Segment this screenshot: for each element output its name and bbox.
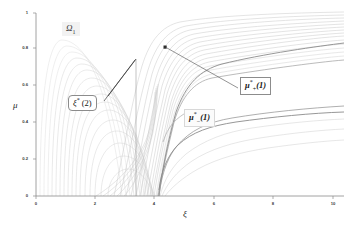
callout-xi-star-2[interactable]: ξ* (2) (68, 95, 97, 111)
x-tick-label-10: 10 (327, 201, 339, 206)
region-label-omega-1: Ω1 (62, 22, 80, 36)
callout-mu-star-minus-1[interactable]: μ*−(1) (184, 109, 215, 127)
y-axis-title: μ (13, 100, 18, 110)
x-axis-title: ξ (183, 209, 187, 219)
x-tick-marks (36, 196, 333, 199)
y-tick-label-0: 0 (14, 193, 28, 198)
critical-point-marker (164, 46, 167, 49)
x-tick-label-0: 0 (30, 201, 42, 206)
x-tick-label-4: 4 (148, 201, 160, 206)
plot-canvas (0, 0, 358, 234)
x-tick-label-6: 6 (208, 201, 220, 206)
y-tick-label-1: 1 (14, 10, 28, 15)
y-tick-label-0-6: 0.6 (14, 82, 28, 87)
mu-plus-superscript: * (250, 79, 253, 85)
xi-star-argument: (2) (80, 98, 92, 108)
y-tick-label-0-8: 0.8 (14, 45, 28, 50)
omega-subscript: 1 (73, 29, 76, 35)
x-tick-label-8: 8 (267, 201, 279, 206)
mu-minus-argument: (1) (200, 112, 210, 122)
mu-plus-argument: (1) (256, 80, 266, 90)
figure-container: 1 0.8 0.6 0.4 0.2 0 0 2 4 6 8 10 μ ξ Ω1 … (0, 0, 358, 234)
y-tick-label-0-2: 0.2 (14, 156, 28, 161)
x-tick-label-2: 2 (89, 201, 101, 206)
callout-mu-star-plus-1[interactable]: μ*+(1) (240, 77, 271, 95)
mu-minus-superscript: * (194, 111, 197, 117)
y-tick-label-0-4: 0.4 (14, 119, 28, 124)
